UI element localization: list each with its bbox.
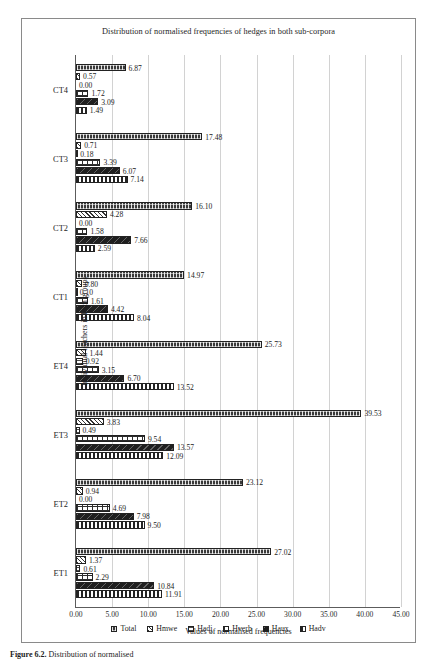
bar-value-label: 12.09: [166, 451, 183, 460]
bar-value-label: 0.18: [80, 149, 93, 158]
bar-et2-haux[interactable]: [76, 513, 134, 520]
bar-row-hverb: 2.29: [76, 573, 401, 580]
legend-swatch-total-icon: [111, 626, 117, 632]
bar-ct2-hmwe[interactable]: [76, 211, 107, 218]
bar-row-hverb: 3.15: [76, 366, 401, 373]
bar-et3-hadv[interactable]: [76, 452, 163, 459]
bar-ct4-hmwe[interactable]: [76, 73, 80, 80]
bar-value-label: 11.91: [165, 590, 182, 599]
bar-ct4-hverb[interactable]: [76, 90, 88, 97]
bar-ct1-hadj[interactable]: [76, 288, 78, 295]
bar-row-hadv: 13.52: [76, 383, 401, 390]
legend-item-haux[interactable]: Haux: [263, 624, 289, 633]
legend-item-total[interactable]: Total: [111, 624, 136, 633]
bar-et1-hadj[interactable]: [76, 565, 80, 572]
legend-item-hadv[interactable]: Hadv: [300, 624, 326, 633]
x-tick-label: 40.00: [356, 610, 373, 619]
bar-row-hadv: 12.09: [76, 452, 401, 459]
bar-row-hadj: 0.10: [76, 288, 401, 295]
bar-value-label: 0.49: [83, 426, 96, 435]
bar-row-hadj: 0.00: [76, 81, 401, 88]
bar-group-ct4: CT46.870.570.001.723.091.49: [76, 55, 400, 124]
bar-ct3-haux[interactable]: [76, 167, 120, 174]
legend-label: Hverb: [232, 624, 252, 633]
bar-et1-haux[interactable]: [76, 582, 154, 589]
bar-ct2-total[interactable]: [76, 202, 192, 209]
bar-row-total: 17.48: [76, 133, 401, 140]
bar-ct2-hverb[interactable]: [76, 228, 87, 235]
category-label: ET1: [54, 569, 68, 578]
bar-value-label: 25.73: [265, 340, 282, 349]
bar-row-haux: 10.84: [76, 582, 401, 589]
legend-label: Haux: [272, 624, 289, 633]
bar-ct3-hadv[interactable]: [76, 176, 128, 183]
bar-et2-total[interactable]: [76, 479, 243, 486]
bar-et3-hverb[interactable]: [76, 435, 145, 442]
bar-value-label: 39.53: [364, 409, 381, 418]
bar-value-label: 2.59: [98, 244, 111, 253]
bar-group-et1: ET127.021.370.612.2910.8411.91: [76, 539, 400, 608]
bar-value-label: 14.97: [187, 271, 204, 280]
bar-group-et3: ET339.533.830.499.5413.5712.09: [76, 401, 400, 470]
bar-row-hadv: 9.50: [76, 521, 401, 528]
bar-et1-total[interactable]: [76, 548, 271, 555]
bar-value-label: 2.29: [96, 573, 109, 582]
bar-et4-total[interactable]: [76, 341, 262, 348]
bar-row-hmwe: 4.28: [76, 211, 401, 218]
bar-row-hadj: 0.49: [76, 427, 401, 434]
bar-ct3-hverb[interactable]: [76, 159, 100, 166]
bar-row-haux: 13.57: [76, 444, 401, 451]
bar-row-hadv: 8.04: [76, 314, 401, 321]
bar-ct3-hmwe[interactable]: [76, 142, 81, 149]
bar-et1-hmwe[interactable]: [76, 556, 86, 563]
bar-row-haux: 7.66: [76, 236, 401, 243]
category-label: ET2: [54, 500, 68, 509]
bar-ct4-hadv[interactable]: [76, 107, 87, 114]
legend-label: Hadj: [197, 624, 212, 633]
bar-et3-hadj[interactable]: [76, 427, 80, 434]
bar-ct3-total[interactable]: [76, 133, 202, 140]
bar-et3-hmwe[interactable]: [76, 418, 104, 425]
bar-ct1-total[interactable]: [76, 271, 184, 278]
bar-et2-hadv[interactable]: [76, 521, 145, 528]
bar-et4-hadv[interactable]: [76, 383, 174, 390]
y-axis-title: Individual teachers in both groups: [80, 276, 89, 385]
bar-et3-haux[interactable]: [76, 444, 174, 451]
legend-label: Total: [120, 624, 136, 633]
legend-item-hadj[interactable]: Hadj: [188, 624, 212, 633]
bar-ct4-haux[interactable]: [76, 98, 98, 105]
category-label: CT2: [53, 223, 68, 232]
bar-value-label: 9.50: [148, 520, 161, 529]
bar-et1-hverb[interactable]: [76, 573, 93, 580]
legend-item-hverb[interactable]: Hverb: [223, 624, 252, 633]
legend-item-hmwe[interactable]: Hmwe: [147, 624, 177, 633]
bar-et2-hverb[interactable]: [76, 504, 110, 511]
bar-row-hadj: 0.00: [76, 219, 401, 226]
bar-ct2-hadv[interactable]: [76, 245, 95, 252]
bar-ct2-haux[interactable]: [76, 236, 131, 243]
bar-row-hverb: 1.61: [76, 297, 401, 304]
figure-container: Distribution of normalised frequencies o…: [21, 18, 416, 643]
bar-ct4-total[interactable]: [76, 64, 126, 71]
bar-row-hverb: 1.58: [76, 228, 401, 235]
bar-row-total: 39.53: [76, 410, 401, 417]
bar-et2-hmwe[interactable]: [76, 487, 83, 494]
legend-label: Hmwe: [156, 624, 177, 633]
x-tick-label: 25.00: [248, 610, 265, 619]
bar-row-hmwe: 1.44: [76, 349, 401, 356]
category-label: CT3: [53, 154, 68, 163]
bar-value-label: 7.14: [131, 175, 144, 184]
category-label: CT4: [53, 85, 68, 94]
bar-value-label: 6.70: [127, 374, 140, 383]
bar-value-label: 1.58: [90, 227, 103, 236]
bar-row-total: 25.73: [76, 341, 401, 348]
bar-et1-hadv[interactable]: [76, 590, 162, 597]
bar-row-hmwe: 0.57: [76, 73, 401, 80]
bar-value-label: 3.39: [103, 158, 116, 167]
bar-ct3-hadj[interactable]: [76, 150, 78, 157]
bar-et3-total[interactable]: [76, 410, 361, 417]
bar-value-label: 9.54: [148, 434, 161, 443]
legend-swatch-hmwe-icon: [147, 626, 153, 632]
bar-row-hverb: 1.72: [76, 90, 401, 97]
bar-value-label: 1.49: [90, 106, 103, 115]
